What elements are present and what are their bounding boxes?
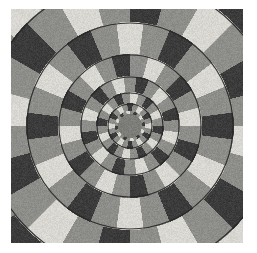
illusion-figure: Grayscale radial checkerboard of wedges … (0, 0, 257, 253)
ring-outline-4 (59, 55, 201, 197)
concentric-ring-outlines (11, 9, 243, 243)
ring-outline-2 (97, 93, 163, 159)
ring-outline-5 (27, 23, 233, 229)
ring-outline-3 (81, 77, 179, 175)
ring-outline-6 (11, 9, 243, 243)
ring-outline-1 (108, 104, 152, 148)
